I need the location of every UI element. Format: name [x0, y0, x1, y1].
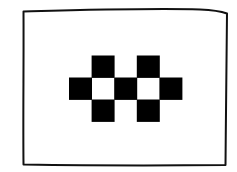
filled-cell-r1-c0	[69, 78, 92, 100]
filled-cell-r1-c2	[114, 78, 137, 100]
filled-cell-r1-c4	[159, 78, 182, 100]
filled-cell-r2-c1	[92, 100, 115, 122]
figure-canvas	[0, 0, 237, 172]
filled-cell-r2-c3	[137, 100, 160, 122]
filled-cell-r0-c3	[137, 56, 160, 78]
filled-cell-r0-c1	[92, 56, 115, 78]
